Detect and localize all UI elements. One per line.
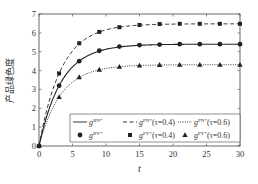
data-point [238,42,243,47]
data-point [177,42,182,47]
y-tick-label: 6 [32,28,36,38]
y-tick-label: 4 [32,66,37,76]
y-tick-label: 1 [32,122,36,132]
data-point [137,43,142,48]
data-point [157,42,162,47]
data-point [158,22,162,26]
y-tick-label: 0 [32,141,36,151]
data-point [57,71,61,75]
x-tick-label: 0 [37,149,41,159]
y-axis-label: 产品绿色度 [4,58,15,103]
x-tick-label: 20 [169,149,178,159]
legend-marker-square [128,133,132,137]
data-point [218,22,222,26]
data-point [97,67,102,72]
y-tick-label: 2 [32,103,36,113]
legend-marker-circle [78,133,83,138]
data-point [218,42,223,47]
data-point [238,22,242,26]
data-point [97,30,101,34]
y-tick-label: 5 [32,47,36,57]
x-tick-label: 25 [202,149,211,159]
y-tick-label: 7 [32,9,36,19]
x-tick-label: 10 [102,149,111,159]
data-point [117,25,121,29]
data-point [117,64,122,69]
data-point [57,83,62,88]
x-axis-label: t [138,163,141,174]
data-point [77,59,82,64]
data-point [178,22,182,26]
data-point [198,22,202,26]
data-point [157,62,162,67]
data-point [138,23,142,27]
y-tick-label: 3 [32,84,36,94]
x-tick-label: 15 [135,149,144,159]
data-point [117,44,122,49]
x-tick-label: 5 [70,149,74,159]
data-point [97,48,102,53]
data-point [197,62,202,67]
data-point [177,62,182,67]
line-chart: 05101520253001234567 gBN*gPN*(τ=0.4)gPN*… [0,0,258,184]
data-point [77,41,81,45]
legend: gBN*gPN*(τ=0.4)gPN*(τ=0.6)gBY*gPY*(τ=0.4… [70,114,240,142]
x-tick-label: 30 [236,149,245,159]
data-point [197,42,202,47]
